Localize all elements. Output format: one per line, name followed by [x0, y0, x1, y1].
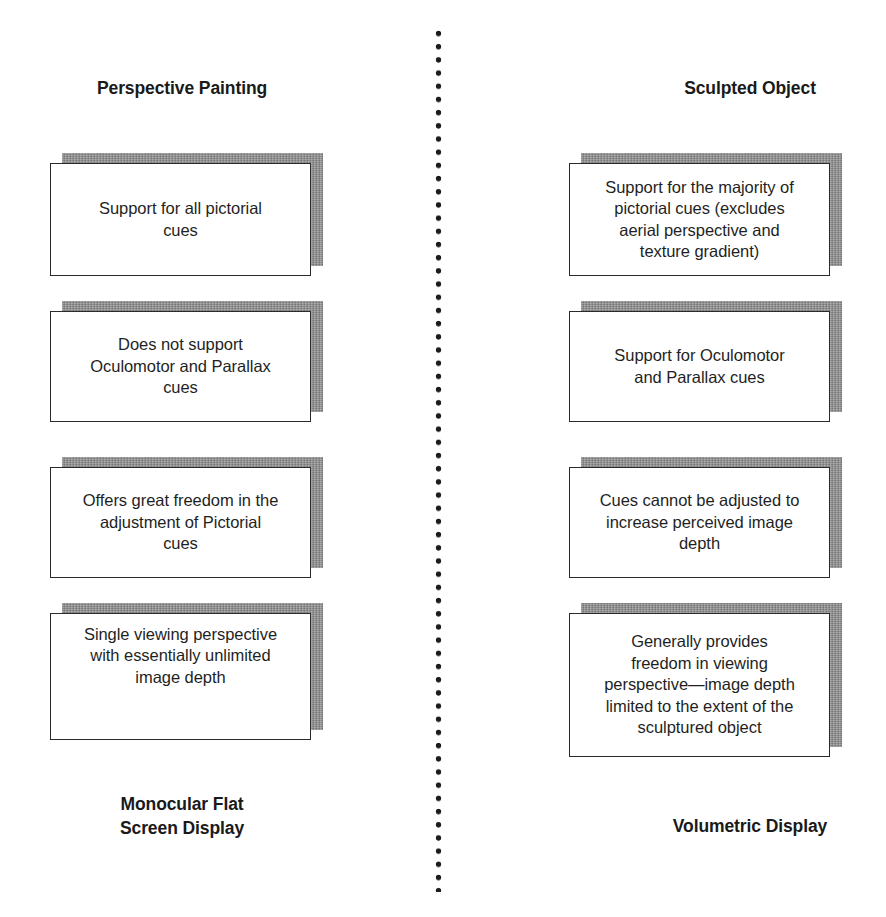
column-title-sculpted-object: Sculpted Object [570, 78, 886, 99]
card-right-1: Support for the majority of pictorial cu… [569, 163, 830, 276]
vertical-dotted-divider [435, 30, 442, 892]
card-text: Support for the majority of pictorial cu… [605, 177, 794, 263]
column-sculpted-object: Sculpted Object Support for the majority… [520, 0, 880, 917]
column-footer-monocular-flat-screen-display: Monocular Flat Screen Display [2, 793, 362, 841]
card-right-4: Generally provides freedom in viewing pe… [569, 613, 830, 757]
card-text: Does not support Oculomotor and Parallax… [90, 334, 270, 398]
card-left-1: Support for all pictorial cues [50, 163, 311, 276]
card-face: Cues cannot be adjusted to increase perc… [569, 467, 830, 578]
card-left-2: Does not support Oculomotor and Parallax… [50, 311, 311, 422]
card-left-3: Offers great freedom in the adjustment o… [50, 467, 311, 578]
card-right-3: Cues cannot be adjusted to increase perc… [569, 467, 830, 578]
column-footer-volumetric-display: Volumetric Display [570, 815, 886, 839]
card-face: Support for Oculomotor and Parallax cues [569, 311, 830, 422]
card-left-4: Single viewing perspective with essentia… [50, 613, 311, 740]
card-face: Generally provides freedom in viewing pe… [569, 613, 830, 757]
card-text: Offers great freedom in the adjustment o… [83, 490, 279, 554]
column-perspective-painting: Perspective Painting Support for all pic… [0, 0, 360, 917]
column-title-perspective-painting: Perspective Painting [2, 78, 362, 99]
card-text: Single viewing perspective with essentia… [84, 624, 277, 688]
card-face: Support for all pictorial cues [50, 163, 311, 276]
card-face: Does not support Oculomotor and Parallax… [50, 311, 311, 422]
comparison-diagram: Perspective Painting Support for all pic… [0, 0, 886, 917]
card-text: Generally provides freedom in viewing pe… [604, 631, 795, 738]
card-face: Support for the majority of pictorial cu… [569, 163, 830, 276]
card-face: Single viewing perspective with essentia… [50, 613, 311, 740]
card-right-2: Support for Oculomotor and Parallax cues [569, 311, 830, 422]
card-text: Support for all pictorial cues [99, 198, 262, 241]
card-face: Offers great freedom in the adjustment o… [50, 467, 311, 578]
card-text: Cues cannot be adjusted to increase perc… [600, 490, 800, 554]
card-text: Support for Oculomotor and Parallax cues [614, 345, 784, 388]
